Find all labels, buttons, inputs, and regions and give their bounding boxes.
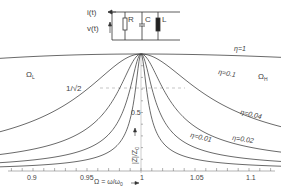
x-ticks [11,168,270,171]
y-tick-label-0.5: 0.5 [131,109,141,116]
resistor-label: R [128,15,134,24]
omega-l-label: ΩL [26,70,35,80]
y-ticks [141,54,143,159]
capacitor-label: C [145,15,151,24]
inductor-label: L [162,15,167,24]
inv-sqrt2-label: 1/√2 [66,84,82,93]
label-eta-0.01: η=0.01 [190,131,213,144]
x-tick-1: 1 [140,174,144,181]
y-axis-arrow-icon [134,128,137,136]
x-tick-0.95: 0.95 [80,174,94,181]
voltage-label: v(t) [87,24,99,33]
label-eta-1: η=1 [234,45,246,53]
label-eta-0.1: η=0.1 [218,68,237,79]
y-axis-label: |Z|/Z0 [131,147,140,164]
x-tick-1.05: 1.05 [190,174,204,181]
x-tick-labels: 0.9 0.95 1 1.05 1.1 [27,174,256,181]
x-tick-1.1: 1.1 [246,174,256,181]
current-arrow-icon [108,10,116,14]
omega-h-label: ΩH [258,72,268,82]
voltage-arrow-icon [109,22,112,33]
x-tick-0.9: 0.9 [27,174,37,181]
x-axis-arrow-icon [131,182,139,185]
resonance-diagram: i(t) v(t) R C L η=1 η=0.1 η=0.04 η=0.02 … [0,0,281,190]
label-eta-0.02: η=0.02 [232,134,255,145]
x-axis-label: Ω = ω/ω0 [94,178,123,187]
current-label: i(t) [87,8,97,17]
curve-eta-0.1 [0,54,281,132]
label-eta-0.04: η=0.04 [240,108,263,121]
